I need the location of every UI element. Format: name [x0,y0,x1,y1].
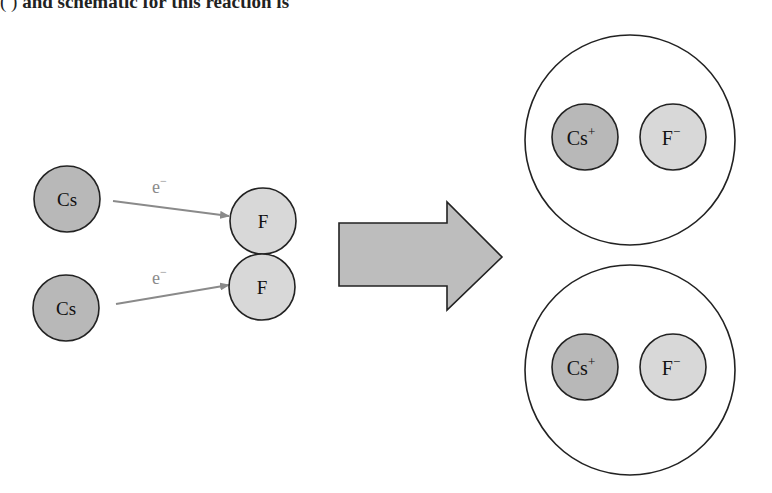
cs-atom-1: Cs [34,166,100,232]
f-atom-1-label: F [258,211,269,232]
electron-arrow-icon [116,285,229,304]
reaction-arrow-icon [339,202,502,310]
electron-label-1: e− [152,174,167,197]
cs-cation-1: Cs+ [552,104,618,170]
f-atom-2-label: F [257,277,268,298]
electron-label-2: e− [152,265,167,288]
cs-atom-1-label: Cs [57,189,77,210]
f-atom-1: F [230,188,296,254]
f-atom-2: F [229,254,295,320]
reaction-diagram: Cs Cs e− e− F F Cs+ F− [0,0,772,493]
cs-atom-2: Cs [33,275,99,341]
f-anion-1: F− [640,104,706,170]
cs-cation-2: Cs+ [552,334,618,400]
cs-atom-2-label: Cs [56,298,76,319]
electron-arrow-icon [113,201,229,216]
electron-transfer-2: e− [116,265,229,304]
ion-pair-1: Cs+ F− [525,35,735,245]
electron-transfer-1: e− [113,174,229,216]
ion-pair-2: Cs+ F− [525,265,735,475]
f-anion-2: F− [640,334,706,400]
